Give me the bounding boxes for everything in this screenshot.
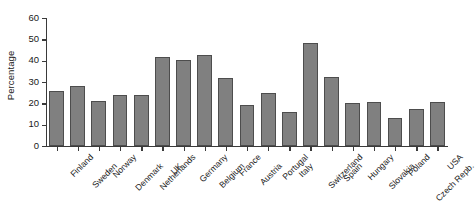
bar (70, 86, 85, 146)
bar (367, 102, 382, 146)
x-tick-mark (289, 147, 290, 151)
bar (303, 43, 318, 146)
x-tick-mark (184, 147, 185, 151)
bar (49, 91, 64, 146)
bar-slot (321, 18, 342, 146)
x-tick-mark (99, 147, 100, 151)
bar-slot (173, 18, 194, 146)
x-tick-mark (374, 147, 375, 151)
bar-slot (46, 18, 67, 146)
bar (345, 103, 360, 146)
x-tick-label: Poland (406, 152, 432, 178)
x-tick-mark (268, 147, 269, 151)
bar (218, 78, 233, 146)
bar (388, 118, 403, 146)
bar (324, 77, 339, 146)
bar (430, 102, 445, 146)
x-tick-mark (162, 147, 163, 151)
y-tick-label: 30 (28, 76, 39, 87)
bar (261, 93, 276, 146)
x-tick-mark (247, 147, 248, 151)
x-tick-mark (57, 147, 58, 151)
y-tick-label: 20 (28, 97, 39, 108)
bar-slot (406, 18, 427, 146)
x-tick-mark (310, 147, 311, 151)
x-tick-label: Finland (68, 152, 95, 179)
x-tick-mark (395, 147, 396, 151)
bar (282, 112, 297, 146)
bar-slot (215, 18, 236, 146)
x-tick-mark (226, 147, 227, 151)
bar (176, 60, 191, 146)
bar-slot (131, 18, 152, 146)
x-tick-mark (416, 147, 417, 151)
bar-slot (194, 18, 215, 146)
x-tick-mark (141, 147, 142, 151)
y-tick-label: 40 (28, 54, 39, 65)
bar-slot (88, 18, 109, 146)
bar-slot (258, 18, 279, 146)
y-axis-label: Percentage (0, 0, 22, 150)
bar-slot (385, 18, 406, 146)
bar-slot (109, 18, 130, 146)
y-tick-label: 50 (28, 33, 39, 44)
bar-slot (427, 18, 448, 146)
y-tick-label: 10 (28, 118, 39, 129)
x-tick-mark (120, 147, 121, 151)
x-tick-mark (78, 147, 79, 151)
y-tick-label: 60 (28, 12, 39, 23)
bar-slot (279, 18, 300, 146)
x-tick-mark (205, 147, 206, 151)
x-tick-mark (332, 147, 333, 151)
x-tick-mark (353, 147, 354, 151)
bar-slot (152, 18, 173, 146)
y-tick-mark (42, 146, 46, 147)
bars-container (46, 18, 448, 146)
bar (113, 95, 128, 146)
x-tick-mark (437, 147, 438, 151)
y-axis-label-text: Percentage (6, 50, 17, 100)
y-tick-label: 0 (34, 140, 39, 151)
bar (240, 105, 255, 146)
bar-slot (342, 18, 363, 146)
bar (134, 95, 149, 146)
bar-slot (300, 18, 321, 146)
bar (197, 55, 212, 146)
bar-slot (67, 18, 88, 146)
bar (91, 101, 106, 146)
x-tick-label: Hungary (365, 152, 395, 182)
bar-slot (363, 18, 384, 146)
bar (409, 109, 424, 146)
bar (155, 57, 170, 146)
bar-slot (236, 18, 257, 146)
